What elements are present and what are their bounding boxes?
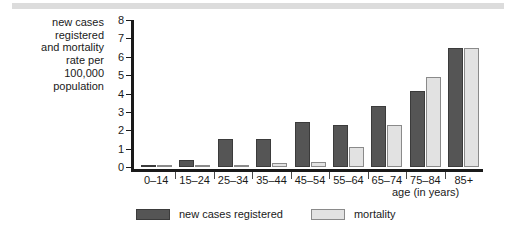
y-tick-label: 2 xyxy=(118,125,124,136)
x-tick-label: 55–64 xyxy=(333,175,364,186)
bar-mortality-2 xyxy=(234,165,249,167)
y-tick-label: 5 xyxy=(118,70,124,81)
bar-cases-7 xyxy=(410,91,425,167)
legend-label: mortality xyxy=(354,208,396,220)
y-tick-label: 8 xyxy=(118,15,124,26)
top-banner-strip xyxy=(12,3,504,9)
x-tick-separator xyxy=(368,172,369,179)
chart-figure: new cases registered and mortality rate … xyxy=(0,0,514,239)
y-axis-spine xyxy=(131,20,134,170)
legend-swatch-icon xyxy=(311,209,345,220)
y-axis-title: new cases registered and mortality rate … xyxy=(10,16,104,92)
bar-cases-2 xyxy=(218,139,233,167)
plot-area: 012345678 0–1415–2425–3435–4445–5455–646… xyxy=(131,20,483,170)
x-tick-separator xyxy=(175,172,176,179)
bar-mortality-6 xyxy=(387,125,402,167)
legend-entry-mortality: mortality xyxy=(311,208,396,220)
bar-cases-6 xyxy=(371,106,386,167)
bar-cases-8 xyxy=(448,48,463,167)
x-axis-title: age (in years) xyxy=(392,186,459,198)
legend-label: new cases registered xyxy=(179,208,283,220)
x-tick-label: 85+ xyxy=(454,175,473,186)
y-tick-mark xyxy=(126,130,131,131)
bar-mortality-8 xyxy=(464,48,479,167)
bar-cases-0 xyxy=(141,165,156,167)
x-tick-separator xyxy=(445,172,446,179)
y-tick-label: 1 xyxy=(118,143,124,154)
legend-swatch-icon xyxy=(136,209,170,220)
x-tick-separator xyxy=(214,172,215,179)
x-tick-label: 45–54 xyxy=(295,175,326,186)
y-tick-mark xyxy=(126,38,131,39)
y-tick-label: 0 xyxy=(118,162,124,173)
x-tick-label: 0–14 xyxy=(144,175,168,186)
y-tick-label: 6 xyxy=(118,51,124,62)
bar-mortality-0 xyxy=(157,165,172,167)
bar-cases-3 xyxy=(256,139,271,167)
y-tick-label: 4 xyxy=(118,88,124,99)
chart-legend: new cases registeredmortality xyxy=(136,208,396,220)
y-tick-mark xyxy=(126,75,131,76)
y-tick-mark xyxy=(126,112,131,113)
x-tick-separator xyxy=(406,172,407,179)
x-tick-label: 25–34 xyxy=(218,175,249,186)
bar-cases-1 xyxy=(179,160,194,167)
x-tick-label: 65–74 xyxy=(372,175,403,186)
x-tick-separator xyxy=(291,172,292,179)
x-axis-spine xyxy=(131,169,483,172)
x-tick-label: 15–24 xyxy=(179,175,210,186)
x-tick-label: 35–44 xyxy=(256,175,287,186)
y-tick-mark xyxy=(126,94,131,95)
bar-cases-5 xyxy=(333,125,348,167)
y-tick-mark xyxy=(126,20,131,21)
legend-entry-cases: new cases registered xyxy=(136,208,283,220)
y-tick-label: 7 xyxy=(118,33,124,44)
y-tick-mark xyxy=(126,57,131,58)
x-tick-label: 75–84 xyxy=(410,175,441,186)
bar-mortality-3 xyxy=(272,163,287,167)
y-tick-label: 3 xyxy=(118,106,124,117)
y-tick-mark xyxy=(126,167,131,168)
bar-mortality-5 xyxy=(349,147,364,167)
y-tick-mark xyxy=(126,149,131,150)
bar-mortality-4 xyxy=(311,162,326,168)
x-tick-separator xyxy=(252,172,253,179)
x-tick-separator xyxy=(329,172,330,179)
bar-mortality-1 xyxy=(195,165,210,167)
bar-mortality-7 xyxy=(426,77,441,167)
bar-cases-4 xyxy=(295,122,310,167)
